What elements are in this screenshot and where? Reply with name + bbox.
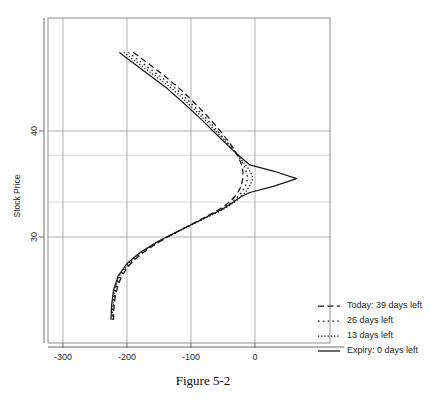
data-series-group xyxy=(111,53,297,320)
series-line-0-days xyxy=(111,53,297,320)
figure-container: -300-200-1000 3040 Stock Price Today: 39… xyxy=(0,0,442,408)
series-line-13-days xyxy=(112,53,252,320)
figure-caption: Figure 5-2 xyxy=(176,373,231,388)
y-tick-label: 40 xyxy=(29,126,39,136)
major-horizontal-gridlines xyxy=(48,131,330,237)
legend-label-39-days: Today: 39 days left xyxy=(347,300,423,310)
x-tick-label: 0 xyxy=(252,352,257,362)
series-line-26-days xyxy=(113,53,247,320)
x-tick-label: -100 xyxy=(182,352,200,362)
x-axis-ticks: -300-200-1000 xyxy=(54,343,258,362)
x-tick-label: -200 xyxy=(118,352,136,362)
y-axis-ticks: 3040 xyxy=(29,126,44,242)
legend-label-26-days: 26 days left xyxy=(347,315,394,325)
plot-area-border xyxy=(48,18,330,343)
minor-horizontal-gridlines xyxy=(48,155,330,202)
legend-label-13-days: 13 days left xyxy=(347,330,394,340)
series-line-39-days xyxy=(114,53,243,320)
option-payoff-chart: -300-200-1000 3040 Stock Price Today: 39… xyxy=(0,0,442,408)
legend-label-0-days: Expiry: 0 days left xyxy=(347,345,419,355)
x-tick-label: -300 xyxy=(54,352,72,362)
y-axis-title: Stock Price xyxy=(12,174,22,217)
y-tick-label: 30 xyxy=(29,232,39,242)
vertical-gridlines xyxy=(63,18,255,343)
